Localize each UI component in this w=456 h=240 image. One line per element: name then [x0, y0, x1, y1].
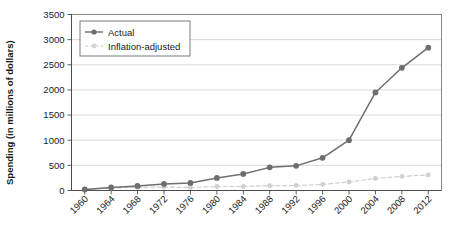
chart-legend: Actual Inflation-adjusted [80, 21, 190, 56]
y-tick-label: 500 [49, 160, 65, 171]
y-tick-label: 3500 [43, 9, 64, 20]
data-point [294, 183, 299, 188]
x-tick-label: 1996 [305, 193, 328, 216]
data-point [293, 163, 299, 169]
spending-line-chart: Spending (in millions of dollars) 050010… [0, 0, 456, 240]
data-point [320, 182, 325, 187]
y-tick-label: 1500 [43, 109, 64, 120]
data-point [188, 180, 194, 186]
data-point [108, 185, 114, 191]
x-tick-label: 1972 [147, 193, 170, 216]
data-point [347, 180, 352, 185]
series-line [85, 48, 429, 190]
data-point [214, 175, 220, 181]
data-point [267, 164, 273, 170]
y-axis-title: Spending (in millions of dollars) [4, 40, 15, 185]
data-series [82, 45, 431, 193]
data-point [82, 187, 88, 193]
x-tick-label: 2004 [358, 193, 381, 216]
legend-label-actual: Actual [108, 27, 134, 38]
x-tick-label: 1964 [94, 193, 117, 216]
data-point [399, 65, 405, 71]
x-tick-label: 1976 [173, 193, 196, 216]
data-point [267, 183, 272, 188]
legend-marker-inflation-adjusted [92, 44, 97, 49]
y-tick-label: 3000 [43, 34, 64, 45]
x-tick-label: 2012 [411, 193, 434, 216]
y-tick-label: 0 [59, 185, 64, 196]
y-axis-title-text: Spending (in millions of dollars) [4, 40, 15, 185]
x-tick-label: 1988 [252, 193, 275, 216]
x-tick-label: 1992 [279, 193, 302, 216]
x-tick-label: 2008 [385, 193, 408, 216]
data-point [241, 184, 246, 189]
data-point [240, 171, 246, 177]
legend-label-inflation-adjusted: Inflation-adjusted [108, 41, 180, 52]
y-tick-label: 2500 [43, 59, 64, 70]
x-tick-label: 2000 [332, 193, 355, 216]
legend-marker-actual [91, 29, 96, 34]
chart-svg: Spending (in millions of dollars) 050010… [0, 0, 456, 240]
data-point [426, 173, 431, 178]
x-tick-label: 1960 [67, 193, 90, 216]
data-point [214, 184, 219, 189]
data-point [425, 45, 431, 51]
x-tick-label: 1984 [226, 193, 249, 216]
series-actual [82, 45, 431, 193]
data-point [399, 174, 404, 179]
data-point [346, 137, 352, 143]
x-tick-label: 1980 [200, 193, 223, 216]
data-point [373, 176, 378, 181]
data-point [161, 181, 167, 187]
x-axis-ticks: 1960196419681972197619801984198819921996… [67, 191, 433, 216]
data-point [373, 90, 379, 96]
y-tick-label: 2000 [43, 84, 64, 95]
series-inflation-adjusted [82, 173, 430, 192]
x-tick-label: 1968 [120, 193, 143, 216]
data-point [135, 183, 141, 189]
y-tick-label: 1000 [43, 135, 64, 146]
y-axis-ticks: 0500100015002000250030003500 [43, 9, 71, 196]
data-point [320, 155, 326, 161]
